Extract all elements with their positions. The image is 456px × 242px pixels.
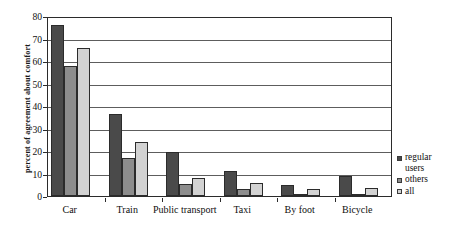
y-tick-label: 20 [12,147,42,157]
legend-item: others [397,174,456,185]
y-tick-label: 30 [12,125,42,135]
legend-swatch-icon [397,189,402,194]
y-tick-label: 60 [12,57,42,67]
bar [135,142,148,196]
bar [307,189,320,196]
bar [365,188,378,196]
gridline [48,152,391,153]
chart-legend: regular usersothersall [397,152,456,197]
legend-label: all [405,186,414,197]
gridline [48,40,391,41]
y-tick-label: 50 [12,80,42,90]
bar [166,152,179,196]
y-tick-mark [43,197,47,198]
legend-item: regular users [397,152,456,173]
y-tick-label: 0 [12,192,42,202]
x-tick-mark [162,198,163,202]
x-tick-mark [105,198,106,202]
bar [51,25,64,196]
bar [64,66,77,197]
gridline [48,62,391,63]
x-tick-mark [220,198,221,202]
bar-chart: percent of agreement about comfort 01020… [0,0,456,242]
bar [294,194,307,196]
bar [122,158,135,196]
gridline [48,130,391,131]
bar [192,178,205,196]
x-tick-mark [335,198,336,202]
x-tick-label: Bicycle [307,204,407,215]
bar [179,184,192,196]
x-tick-mark [277,198,278,202]
bar [77,48,90,197]
legend-swatch-icon [397,156,402,161]
bar [281,185,294,196]
plot-area [47,17,392,197]
bar [352,194,365,196]
y-tick-label: 70 [12,35,42,45]
bar [339,176,352,196]
legend-label: others [405,174,428,185]
bar [237,189,250,196]
y-tick-label: 40 [12,102,42,112]
y-tick-label: 80 [12,12,42,22]
bar [224,171,237,196]
gridline [48,85,391,86]
y-tick-label: 10 [12,170,42,180]
legend-swatch-icon [397,178,402,183]
bar [250,183,263,197]
bar [109,114,122,196]
gridline [48,107,391,108]
legend-label: regular users [405,152,432,173]
legend-item: all [397,186,456,197]
